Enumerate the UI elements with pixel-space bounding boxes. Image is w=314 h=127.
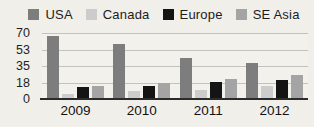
legend-label: Europe xyxy=(180,7,223,22)
x-tick-label: 2011 xyxy=(180,103,237,118)
legend-item-se-asia: SE Asia xyxy=(236,7,300,22)
bar-se-asia-2011 xyxy=(225,79,237,99)
bar-group-2010 xyxy=(113,33,170,99)
bar-se-asia-2012 xyxy=(291,75,303,99)
bar-group-2011 xyxy=(180,33,237,99)
y-tick-label: 35 xyxy=(16,59,30,73)
legend-item-europe: Europe xyxy=(163,7,223,22)
y-tick-label: 18 xyxy=(16,76,30,90)
legend-item-canada: Canada xyxy=(86,7,150,22)
x-tick-label: 2010 xyxy=(113,103,170,118)
chart-legend: USACanadaEuropeSE Asia xyxy=(14,7,314,22)
bar-group-2012 xyxy=(246,33,303,99)
y-tick-label: 70 xyxy=(16,26,30,40)
legend-swatch-europe xyxy=(163,9,174,20)
legend-item-usa: USA xyxy=(28,7,72,22)
legend-swatch-usa xyxy=(28,9,39,20)
bar-usa-2012 xyxy=(246,63,258,99)
x-axis: 2009201020112012 xyxy=(42,103,308,118)
bar-chart: USACanadaEuropeSE Asia 705335180 2009201… xyxy=(0,0,314,127)
bar-europe-2011 xyxy=(210,82,222,99)
legend-swatch-canada xyxy=(86,9,97,20)
bar-se-asia-2010 xyxy=(158,83,170,99)
x-axis-line xyxy=(40,98,308,100)
legend-label: SE Asia xyxy=(253,7,300,22)
bar-usa-2009 xyxy=(47,36,59,99)
x-tick-label: 2012 xyxy=(246,103,303,118)
plot-area xyxy=(42,33,308,99)
y-axis: 705335180 xyxy=(0,33,32,99)
legend-swatch-se-asia xyxy=(236,9,247,20)
bar-groups xyxy=(42,33,308,99)
bar-europe-2012 xyxy=(276,80,288,99)
y-tick-label: 0 xyxy=(23,92,30,106)
x-tick-label: 2009 xyxy=(47,103,104,118)
bar-usa-2011 xyxy=(180,58,192,99)
bar-group-2009 xyxy=(47,33,104,99)
legend-label: Canada xyxy=(103,7,150,22)
y-tick-label: 53 xyxy=(16,43,30,57)
bar-usa-2010 xyxy=(113,44,125,99)
legend-label: USA xyxy=(45,7,72,22)
